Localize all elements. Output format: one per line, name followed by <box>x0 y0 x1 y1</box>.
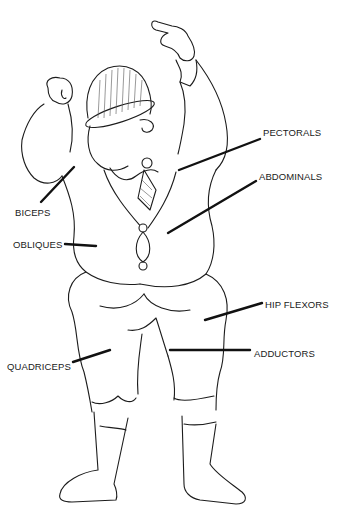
label-pectorals: PECTORALS <box>263 128 321 138</box>
label-adductors: ADDUCTORS <box>254 349 315 359</box>
label-abdominals: ABDOMINALS <box>259 172 322 182</box>
muscle-diagram: PECTORALS ABDOMINALS BICEPS OBLIQUES HIP… <box>0 0 337 511</box>
figure-illustration <box>0 0 337 511</box>
label-biceps: BICEPS <box>15 208 50 218</box>
label-obliques: OBLIQUES <box>13 240 62 250</box>
label-hip-flexors: HIP FLEXORS <box>265 300 329 310</box>
label-quadriceps: QUADRICEPS <box>7 362 71 372</box>
